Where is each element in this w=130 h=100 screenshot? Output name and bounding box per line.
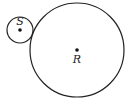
label-s: S: [16, 15, 24, 28]
center-point-r: [75, 48, 79, 52]
tangent-circles-diagram: S R: [0, 0, 130, 100]
label-r: R: [72, 53, 81, 66]
center-point-s: [18, 28, 22, 32]
